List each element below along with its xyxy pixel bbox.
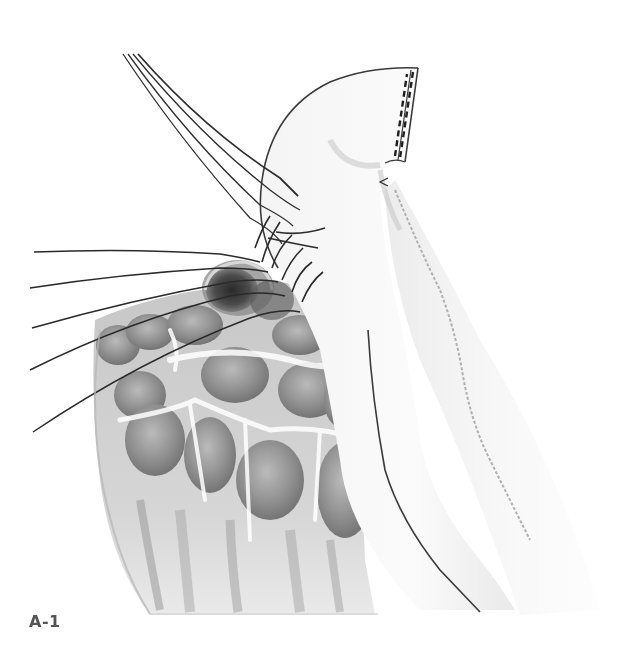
illustration-canvas [0, 0, 630, 650]
figure-label: A-1 [29, 612, 61, 631]
surgical-illustration: A-1 [0, 0, 630, 650]
